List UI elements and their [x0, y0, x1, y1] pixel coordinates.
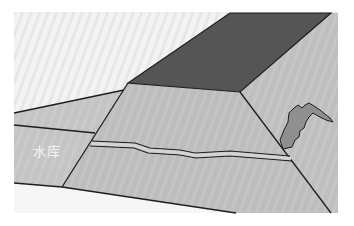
reservoir-label: 水库: [33, 141, 60, 160]
dam-illustration: [0, 0, 354, 226]
dam-diagram: 水库: [0, 0, 354, 226]
